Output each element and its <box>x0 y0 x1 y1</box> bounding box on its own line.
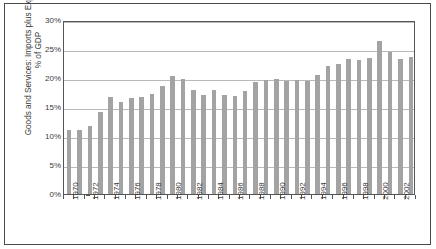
x-tick-label: 1986 <box>237 182 245 200</box>
bar <box>409 57 414 194</box>
bar <box>315 75 320 194</box>
bar <box>119 102 124 194</box>
bar <box>284 81 289 194</box>
bar <box>201 95 206 194</box>
bar <box>129 98 134 194</box>
x-tick-mark <box>332 195 333 199</box>
y-tick-label: 15% <box>27 104 61 112</box>
bar <box>233 96 238 194</box>
bar <box>243 91 248 194</box>
x-tick-label: 1984 <box>217 182 225 200</box>
y-tick-label: 0% <box>27 191 61 199</box>
bar <box>181 79 186 194</box>
bar <box>108 97 113 194</box>
x-tick-mark <box>146 195 147 199</box>
x-tick-label: 2002 <box>403 182 411 200</box>
x-tick-mark <box>125 195 126 199</box>
bar <box>346 59 351 194</box>
bar <box>212 90 217 194</box>
bar <box>160 86 165 194</box>
x-tick-mark <box>311 195 312 199</box>
x-tick-mark <box>374 195 375 199</box>
x-tick-label: 2000 <box>382 182 390 200</box>
bar <box>150 94 155 194</box>
bar <box>377 41 382 194</box>
bar <box>388 52 393 194</box>
x-tick-mark <box>415 195 416 199</box>
bar <box>357 60 362 194</box>
x-tick-label: 1988 <box>258 182 266 200</box>
x-tick-label: 1980 <box>175 182 183 200</box>
y-axis-tick-labels: 0%5%10%15%20%25%30% <box>27 0 61 249</box>
x-tick-mark <box>187 195 188 199</box>
x-tick-label: 1982 <box>196 182 204 200</box>
x-tick-mark <box>84 195 85 199</box>
bar <box>326 66 331 194</box>
x-tick-label: 1972 <box>92 182 100 200</box>
y-tick-label: 10% <box>27 133 61 141</box>
x-tick-label: 1970 <box>72 182 80 200</box>
x-tick-label: 1978 <box>155 182 163 200</box>
bar <box>170 76 175 194</box>
y-tick-label: 25% <box>27 46 61 54</box>
x-tick-mark <box>229 195 230 199</box>
x-tick-mark <box>167 195 168 199</box>
chart-figure: Goods and Services: Imports plus Exports… <box>0 0 436 249</box>
x-tick-label: 1992 <box>299 182 307 200</box>
x-tick-mark <box>270 195 271 199</box>
y-tick-label: 5% <box>27 162 61 170</box>
bar <box>274 79 279 194</box>
x-tick-label: 1994 <box>320 182 328 200</box>
x-tick-mark <box>353 195 354 199</box>
x-tick-mark <box>104 195 105 199</box>
bar <box>295 80 300 194</box>
y-tick-label: 30% <box>27 17 61 25</box>
x-tick-mark <box>291 195 292 199</box>
x-tick-mark <box>394 195 395 199</box>
bar <box>367 58 372 194</box>
x-axis-tick-labels: 1970197219741976197819801982198419861988… <box>63 200 415 244</box>
bar <box>253 82 258 194</box>
bar <box>398 59 403 194</box>
x-tick-label: 1974 <box>113 182 121 200</box>
x-tick-mark <box>63 195 64 199</box>
x-tick-mark <box>208 195 209 199</box>
bar <box>336 64 341 194</box>
x-tick-label: 1990 <box>279 182 287 200</box>
x-tick-mark <box>249 195 250 199</box>
bar <box>191 90 196 194</box>
bar <box>222 95 227 194</box>
bar <box>305 81 310 194</box>
x-tick-label: 1998 <box>362 182 370 200</box>
x-tick-label: 1976 <box>134 182 142 200</box>
y-tick-label: 20% <box>27 75 61 83</box>
x-tick-label: 1996 <box>341 182 349 200</box>
bar-series <box>64 22 414 194</box>
plot-area <box>63 21 415 195</box>
bar <box>264 80 269 194</box>
bar <box>139 97 144 194</box>
